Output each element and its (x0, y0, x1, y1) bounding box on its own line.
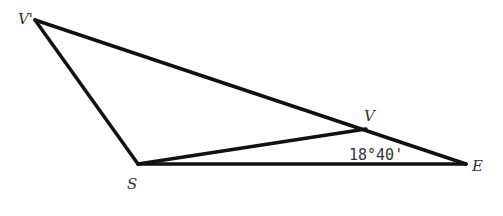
label-e: E (471, 157, 483, 175)
segment-vprime-e (35, 20, 466, 164)
triangle-diagram: V' V S E 18°40' (0, 0, 503, 216)
label-v-prime: V' (18, 10, 33, 28)
segment-s-v (138, 129, 366, 164)
label-s: S (127, 175, 137, 193)
angle-label: 18°40' (349, 146, 403, 164)
segment-vprime-s (35, 20, 138, 164)
label-v: V (364, 107, 377, 125)
